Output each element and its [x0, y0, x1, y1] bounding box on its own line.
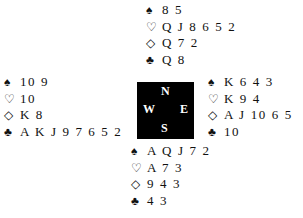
south-hearts-row: ♡A 7 3 — [131, 160, 211, 177]
east-hearts-row: ♡K 9 4 — [208, 91, 293, 108]
south-diamonds: 9 4 3 — [147, 176, 181, 192]
east-hand: ♠K 6 4 3 ♡K 9 4 ◇A J 10 6 5 ♣10 — [208, 74, 293, 140]
south-hand: ♠A Q J 7 2 ♡A 7 3 ◇9 4 3 ♣4 3 — [131, 143, 211, 209]
club-icon: ♣ — [131, 194, 147, 210]
south-hearts: A 7 3 — [147, 160, 183, 176]
compass-west: W — [143, 102, 155, 117]
diamond-icon: ◇ — [146, 36, 162, 52]
west-diamonds: K 8 — [20, 107, 44, 123]
south-diamonds-row: ◇9 4 3 — [131, 176, 211, 193]
north-diamonds: Q 7 2 — [162, 35, 199, 51]
club-icon: ♣ — [208, 125, 224, 141]
compass-north: N — [161, 84, 170, 99]
west-hand: ♠10 9 ♡10 ◇K 8 ♣A K J 9 7 6 5 2 — [4, 74, 122, 140]
south-clubs: 4 3 — [147, 193, 168, 209]
south-spades-row: ♠A Q J 7 2 — [131, 143, 211, 160]
north-hand: ♠8 5 ♡Q J 8 6 5 2 ◇Q 7 2 ♣Q 8 — [146, 2, 236, 68]
east-clubs: 10 — [224, 124, 240, 140]
north-hearts-row: ♡Q J 8 6 5 2 — [146, 19, 236, 36]
compass-east: E — [180, 102, 188, 117]
club-icon: ♣ — [146, 53, 162, 69]
west-clubs-row: ♣A K J 9 7 6 5 2 — [4, 124, 122, 141]
diamond-icon: ◇ — [4, 108, 20, 124]
south-spades: A Q J 7 2 — [147, 143, 211, 159]
heart-icon: ♡ — [4, 92, 20, 108]
east-hearts: K 9 4 — [224, 91, 261, 107]
compass-south: S — [161, 121, 168, 136]
east-diamonds-row: ◇A J 10 6 5 — [208, 107, 293, 124]
south-clubs-row: ♣4 3 — [131, 193, 211, 210]
heart-icon: ♡ — [208, 92, 224, 108]
north-spades-row: ♠8 5 — [146, 2, 236, 19]
spade-icon: ♠ — [208, 75, 224, 91]
compass-box: N W E S — [137, 82, 194, 139]
east-spades-row: ♠K 6 4 3 — [208, 74, 293, 91]
club-icon: ♣ — [4, 125, 20, 141]
spade-icon: ♠ — [146, 3, 162, 19]
east-clubs-row: ♣10 — [208, 124, 293, 141]
west-diamonds-row: ◇K 8 — [4, 107, 122, 124]
heart-icon: ♡ — [131, 161, 147, 177]
north-spades: 8 5 — [162, 2, 183, 18]
east-spades: K 6 4 3 — [224, 74, 274, 90]
west-clubs: A K J 9 7 6 5 2 — [20, 124, 122, 140]
west-hearts: 10 — [20, 91, 36, 107]
east-diamonds: A J 10 6 5 — [224, 107, 293, 123]
north-clubs-row: ♣Q 8 — [146, 52, 236, 69]
north-hearts: Q J 8 6 5 2 — [162, 19, 236, 35]
west-spades: 10 9 — [20, 74, 49, 90]
heart-icon: ♡ — [146, 20, 162, 36]
diamond-icon: ◇ — [131, 177, 147, 193]
north-clubs: Q 8 — [162, 52, 186, 68]
spade-icon: ♠ — [131, 144, 147, 160]
north-diamonds-row: ◇Q 7 2 — [146, 35, 236, 52]
spade-icon: ♠ — [4, 75, 20, 91]
west-spades-row: ♠10 9 — [4, 74, 122, 91]
west-hearts-row: ♡10 — [4, 91, 122, 108]
diamond-icon: ◇ — [208, 108, 224, 124]
